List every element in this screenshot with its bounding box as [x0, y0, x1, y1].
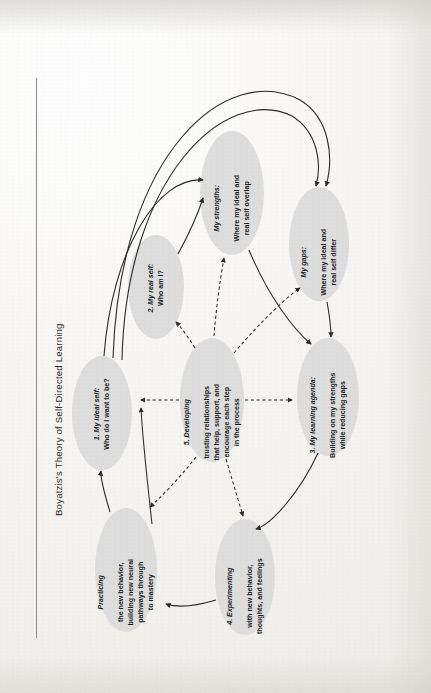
- node-shape-strengths: [200, 131, 264, 255]
- node-shape-real-self: [128, 235, 184, 339]
- node-shape-trusting: [180, 338, 244, 462]
- edge-spine-practicing-to-ideal-self: [141, 408, 152, 524]
- edge-agenda-to-experimenting: [256, 453, 318, 529]
- node-shape-gaps: [289, 187, 349, 301]
- edge-gaps-to-agenda: [327, 302, 331, 337]
- title-rule: [36, 78, 37, 638]
- edge-trusting-to-gaps: [234, 288, 300, 353]
- spine-connector: [141, 408, 152, 524]
- edge-trusting-to-experimenting: [226, 459, 243, 516]
- edge-real-self-to-strengths: [178, 198, 203, 254]
- edge-trusting-to-practicing: [150, 457, 196, 507]
- edge-experimenting-to-practicing: [166, 600, 216, 606]
- node-shapes: [72, 131, 359, 635]
- edge-practicing-to-ideal-self: [101, 471, 110, 512]
- node-shape-agenda: [297, 338, 359, 456]
- node-shape-ideal-self: [72, 356, 132, 470]
- edge-trusting-to-strengths: [214, 258, 224, 336]
- node-shape-experimenting: [215, 519, 275, 635]
- node-shape-practicing: [95, 508, 157, 632]
- edge-trusting-to-real-self: [176, 322, 195, 348]
- figure-title: Boyatzis's Theory of Self-Directed Learn…: [53, 96, 73, 516]
